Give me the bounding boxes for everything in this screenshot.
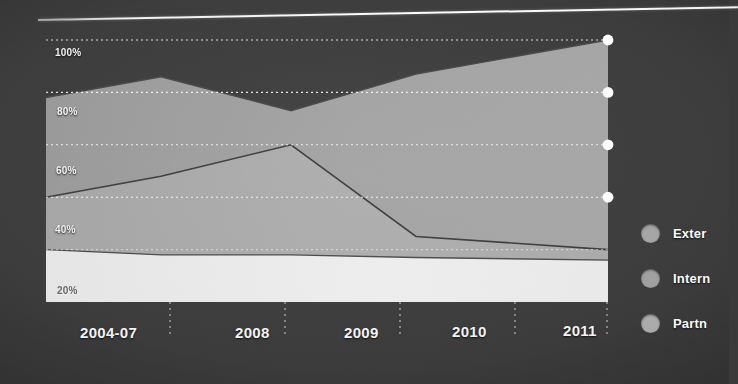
legend-item-external[interactable]: Exter [641, 222, 729, 244]
y-axis-label-100: 100% [55, 47, 81, 58]
legend-label-external: Exter [673, 226, 707, 241]
legend-swatch-icon-external [641, 224, 660, 243]
legend-label-partner: Partn [673, 316, 707, 331]
endpoint-marker-60 [603, 139, 614, 150]
legend-label-internal: Intern [673, 271, 710, 286]
x-axis-label-2008: 2008 [235, 324, 270, 341]
stacked-area-svg [46, 40, 608, 302]
y-axis-label-80: 80% [57, 106, 78, 117]
endpoint-marker-80 [603, 87, 614, 98]
x-axis-label-2010: 2010 [452, 323, 487, 340]
legend-swatch-icon-internal [641, 269, 660, 288]
legend-swatch-icon-partner [641, 314, 660, 333]
y-axis-label-40: 40% [55, 224, 76, 235]
endpoint-marker-100 [603, 35, 614, 46]
legend-item-partner[interactable]: Partn [641, 312, 729, 334]
endpoint-marker-40 [603, 192, 614, 203]
x-axis-label-2004-07: 2004-07 [80, 324, 137, 341]
y-axis-label-60: 60% [56, 165, 77, 176]
legend-item-internal[interactable]: Intern [641, 267, 729, 289]
y-axis-label-20: 20% [57, 285, 78, 296]
chart-plot-area [46, 40, 608, 302]
x-axis-label-2009: 2009 [344, 324, 379, 341]
chart-legend: Exter Intern Partn [641, 222, 729, 357]
x-axis-label-2011: 2011 [563, 322, 597, 339]
